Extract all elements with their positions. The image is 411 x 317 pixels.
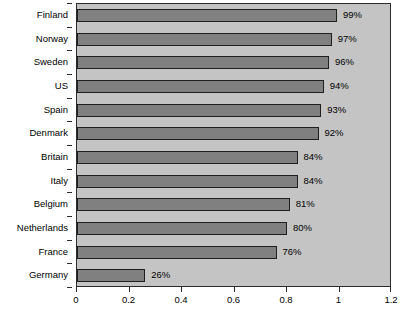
bar-row: 81% (77, 193, 390, 217)
bar-value-label: 92% (325, 125, 344, 140)
bar-value-label: 96% (335, 54, 354, 69)
category-label: Spain (44, 98, 68, 122)
y-axis-tick (67, 3, 72, 4)
bar-row: 84% (77, 146, 390, 170)
category-label: Britain (41, 145, 68, 169)
category-label: Finland (37, 3, 68, 27)
x-axis-tick-label: 0.4 (174, 294, 187, 305)
x-axis-tick-label: 1.2 (384, 294, 397, 305)
y-axis-tick (67, 169, 72, 170)
y-axis-tick (67, 192, 72, 193)
category-label: Belgium (34, 192, 68, 216)
bar-row: 93% (77, 99, 390, 123)
bar-chart: FinlandNorwaySwedenUSSpainDenmarkBritain… (0, 0, 411, 317)
bar (77, 9, 337, 22)
category-label: Netherlands (17, 216, 68, 240)
x-axis-tick (286, 287, 287, 292)
bar-value-label: 26% (151, 267, 170, 282)
x-axis-tick (76, 287, 77, 292)
category-label: Germany (29, 263, 68, 287)
bar-value-label: 84% (304, 173, 323, 188)
bar-row: 92% (77, 122, 390, 146)
plot-area: 99%97%96%94%93%92%84%84%81%80%76%26% (76, 3, 391, 287)
bar (77, 246, 277, 259)
bar (77, 33, 332, 46)
y-axis-tick (67, 145, 72, 146)
y-axis-tick (67, 287, 72, 288)
bar-value-label: 80% (293, 220, 312, 235)
bar-value-label: 76% (283, 244, 302, 259)
bar (77, 151, 298, 164)
bar (77, 269, 145, 282)
bar-value-label: 94% (330, 78, 349, 93)
category-label: Sweden (34, 50, 68, 74)
category-label: US (55, 74, 68, 98)
y-axis-tick (67, 74, 72, 75)
x-axis-tick (129, 287, 130, 292)
x-axis-tick-label: 0 (73, 294, 78, 305)
category-label: Norway (36, 27, 68, 51)
bar-value-label: 97% (338, 31, 357, 46)
bar-value-label: 81% (296, 196, 315, 211)
bar-row: 80% (77, 217, 390, 241)
bar (77, 80, 324, 93)
category-label: Denmark (29, 121, 68, 145)
y-axis-tick (67, 263, 72, 264)
bar-rows: 99%97%96%94%93%92%84%84%81%80%76%26% (77, 4, 390, 286)
category-label: Italy (51, 169, 68, 193)
bar-row: 97% (77, 28, 390, 52)
y-axis-tick (67, 216, 72, 217)
x-axis-tick-label: 0.6 (227, 294, 240, 305)
x-axis: 00.20.40.60.811.2 (76, 287, 391, 317)
bar-value-label: 84% (304, 149, 323, 164)
bar (77, 56, 329, 69)
bar-row: 94% (77, 75, 390, 99)
y-axis-tick (67, 98, 72, 99)
bar (77, 222, 287, 235)
bar (77, 104, 321, 117)
x-axis-tick-label: 0.8 (279, 294, 292, 305)
bar-value-label: 99% (343, 7, 362, 22)
x-axis-tick (234, 287, 235, 292)
bar-row: 84% (77, 170, 390, 194)
x-axis-tick-label: 1 (336, 294, 341, 305)
x-axis-tick (181, 287, 182, 292)
category-label: France (38, 240, 68, 264)
y-axis-tick (67, 121, 72, 122)
bar (77, 198, 290, 211)
y-axis-tick (67, 50, 72, 51)
x-axis-tick (339, 287, 340, 292)
x-axis-tick (390, 287, 391, 292)
bar (77, 175, 298, 188)
bar-row: 26% (77, 264, 390, 288)
bar-row: 76% (77, 241, 390, 265)
x-axis-tick-label: 0.2 (122, 294, 135, 305)
y-axis-tick (67, 27, 72, 28)
bar (77, 127, 319, 140)
bar-value-label: 93% (327, 102, 346, 117)
y-axis-tick (67, 240, 72, 241)
bar-row: 99% (77, 4, 390, 28)
category-axis-labels: FinlandNorwaySwedenUSSpainDenmarkBritain… (0, 3, 72, 287)
bar-row: 96% (77, 51, 390, 75)
